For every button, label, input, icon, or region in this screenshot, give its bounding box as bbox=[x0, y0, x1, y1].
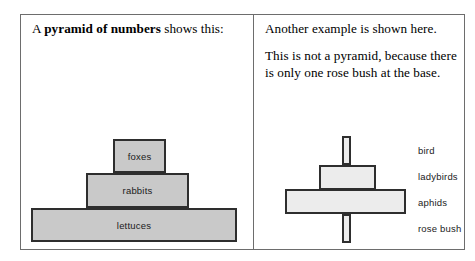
caption-bold-term: pyramid of numbers bbox=[44, 21, 161, 36]
inverted-level-bird bbox=[342, 136, 351, 165]
pyramid-level-rabbits: rabbits bbox=[86, 173, 189, 208]
right-panel: Another example is shown here. This is n… bbox=[254, 15, 466, 249]
pyramid-level-foxes: foxes bbox=[113, 139, 166, 173]
left-panel: A pyramid of numbers shows this: foxes r… bbox=[21, 15, 253, 249]
caption-prefix: A bbox=[32, 21, 44, 36]
pyramid-level-lettuces: lettuces bbox=[31, 208, 237, 242]
pyramid-level-foxes-label: foxes bbox=[128, 151, 152, 162]
pyramid-level-lettuces-label: lettuces bbox=[117, 220, 151, 231]
inverted-label-ladybirds: ladybirds bbox=[418, 171, 458, 182]
caption-suffix: shows this: bbox=[161, 21, 224, 36]
inverted-label-aphids: aphids bbox=[418, 197, 447, 208]
inverted-level-ladybirds bbox=[319, 165, 376, 190]
inverted-label-rose-bush: rose bush bbox=[418, 223, 462, 234]
right-panel-paragraph-2: This is not a pyramid, because there is … bbox=[265, 48, 464, 82]
right-panel-paragraph-1: Another example is shown here. bbox=[265, 21, 461, 38]
inverted-level-aphids bbox=[285, 189, 406, 214]
inverted-label-bird: bird bbox=[418, 145, 435, 156]
inverted-level-rose-bush bbox=[342, 214, 351, 243]
pyramid-level-rabbits-label: rabbits bbox=[123, 185, 153, 196]
figure-frame: A pyramid of numbers shows this: foxes r… bbox=[20, 14, 465, 250]
left-panel-caption: A pyramid of numbers shows this: bbox=[32, 21, 242, 38]
